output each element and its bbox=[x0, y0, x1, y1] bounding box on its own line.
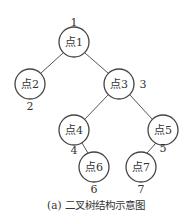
node-number-5: 5 bbox=[160, 142, 167, 155]
node-number-3: 3 bbox=[140, 78, 147, 91]
node-label-2: 点2 bbox=[21, 78, 39, 91]
edge-3-5 bbox=[130, 95, 152, 119]
node-label-7: 点7 bbox=[132, 161, 150, 174]
figure-caption: (a) 二叉树结构示意图 bbox=[0, 197, 192, 212]
edge-5-7 bbox=[147, 143, 156, 153]
node-number-4: 4 bbox=[71, 144, 78, 157]
binary-tree-diagram: 点1 点2 点3 点4 点5 点6 点7 1 2 3 4 5 6 7 bbox=[0, 0, 192, 217]
edge-3-4 bbox=[85, 95, 108, 119]
edge-4-6 bbox=[82, 143, 88, 153]
node-label-1: 点1 bbox=[65, 36, 83, 49]
node-number-2: 2 bbox=[27, 100, 34, 113]
edge-1-2 bbox=[41, 53, 63, 73]
node-label-6: 点6 bbox=[85, 161, 103, 174]
node-number-7: 7 bbox=[138, 183, 145, 196]
node-number-1: 1 bbox=[71, 16, 78, 29]
edge-1-3 bbox=[85, 53, 108, 73]
node-number-6: 6 bbox=[91, 183, 98, 196]
node-label-5: 点5 bbox=[154, 124, 172, 137]
node-label-4: 点4 bbox=[65, 124, 83, 137]
node-label-3: 点3 bbox=[110, 78, 128, 91]
